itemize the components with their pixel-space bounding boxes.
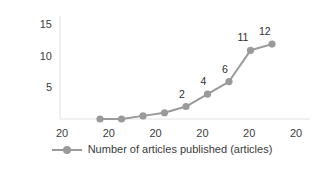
chart-legend: Number of articles published (articles)	[0, 144, 324, 155]
x-axis-tick-label: 20	[281, 128, 311, 139]
series-markers	[96, 40, 275, 122]
data-point-label: 11	[238, 32, 249, 43]
data-point-label: 2	[179, 89, 185, 100]
x-axis-tick-label: 20	[187, 128, 217, 139]
data-point-label: 12	[259, 26, 271, 37]
x-axis-tick-label: 20	[94, 128, 124, 139]
y-axis-tick-label: 10	[30, 51, 52, 62]
data-point-marker	[225, 78, 232, 85]
data-point-marker	[139, 112, 146, 119]
line-chart: 51015 202020202020 2461112 Number of art…	[0, 0, 324, 174]
data-point-marker	[182, 103, 189, 110]
data-point-marker	[96, 115, 103, 122]
data-point-marker	[247, 47, 254, 54]
y-axis-tick-label: 15	[30, 19, 52, 30]
data-point-marker	[118, 115, 125, 122]
line-marker-icon	[52, 145, 82, 155]
data-point-marker	[161, 109, 168, 116]
data-point-marker	[268, 40, 275, 47]
legend-dot	[63, 146, 71, 154]
x-axis-tick-label: 20	[141, 128, 171, 139]
data-point-label: 6	[222, 64, 228, 75]
data-point-label: 4	[201, 76, 207, 87]
series-line-articles	[96, 40, 275, 122]
x-axis-tick-label: 20	[234, 128, 264, 139]
x-axis-tick-label: 20	[47, 128, 77, 139]
data-point-marker	[204, 90, 211, 97]
y-axis-tick-label: 5	[30, 82, 52, 93]
legend-label: Number of articles published (articles)	[88, 144, 273, 155]
